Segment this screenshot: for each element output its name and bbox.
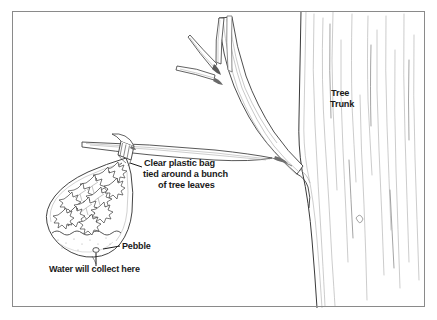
plastic-bag-label-line2: tied around a bunch — [143, 169, 228, 179]
diagram-canvas: Tree Trunk Clear plastic bag tied around… — [0, 0, 437, 320]
tree-trunk — [299, 11, 424, 308]
plastic-bag-label-line3: of tree leaves — [158, 180, 215, 190]
tree-trunk-label-line1: Tree — [331, 88, 349, 98]
illustration-figure: Tree Trunk Clear plastic bag tied around… — [0, 0, 437, 320]
pebble — [93, 248, 99, 253]
water-collect-label: Water will collect here — [49, 264, 140, 274]
tree-trunk-label-line2: Trunk — [330, 99, 355, 109]
tree-trunk-body — [299, 11, 424, 308]
plastic-bag-label-line1: Clear plastic bag — [144, 158, 215, 168]
branch-tip-upper-2 — [227, 16, 232, 72]
pebble-label: Pebble — [122, 241, 151, 251]
